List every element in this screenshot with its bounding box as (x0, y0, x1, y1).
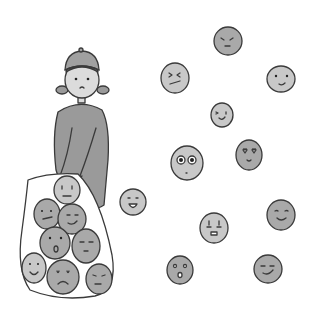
bag-face-worried (54, 176, 80, 204)
face-wink (211, 103, 233, 127)
face-love (236, 140, 262, 170)
bag-face-smile (22, 253, 46, 283)
girl-hat-bobble (79, 48, 83, 52)
girl-eye-left (75, 78, 78, 81)
face-shocked (167, 256, 193, 284)
face-confused (161, 63, 189, 93)
bag-face-surprised (40, 227, 70, 259)
face-smug (254, 255, 282, 283)
face-big-eyes (171, 146, 203, 180)
bag-face-sad (47, 260, 79, 294)
face-angry (214, 27, 242, 55)
face-happy (267, 200, 295, 230)
floating-faces (120, 27, 295, 284)
bag-face-content (72, 229, 100, 263)
illustration-canvas (0, 0, 317, 316)
face-smile (267, 66, 295, 92)
face-scared (200, 213, 228, 243)
girl-eye-right (87, 78, 90, 81)
bag-face-annoyed (34, 199, 60, 229)
girl-pigtail-right (97, 86, 109, 94)
face-laugh (120, 189, 146, 215)
bag-face-grumpy (86, 264, 112, 294)
